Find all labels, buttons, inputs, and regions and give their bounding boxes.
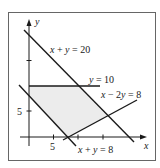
y-axis-arrow-icon [27, 19, 32, 26]
x-axis-label: x [143, 140, 149, 151]
y-tick-label-5: 5 [17, 106, 22, 117]
lp-graph: y x 5 5 x + y = 20 y = 10 x − 2y = 8 x +… [0, 0, 160, 168]
label-y-10: y = 10 [88, 74, 114, 85]
x-tick-label-5: 5 [50, 141, 55, 152]
y-axis-label: y [34, 16, 40, 27]
label-x-plus-y-20: x + y = 20 [49, 44, 90, 55]
label-x-minus-2y-8: x − 2y = 8 [100, 89, 141, 100]
feasible-region [29, 86, 108, 137]
label-x-plus-y-8: x + y = 8 [77, 144, 113, 155]
x-axis-arrow-icon [140, 135, 147, 140]
